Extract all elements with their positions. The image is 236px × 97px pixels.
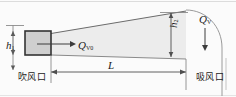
label-qv0-subscript: V0 [86,45,93,51]
L-arrow-right-head [180,69,186,74]
label-h2-subscript: 2 [173,20,179,23]
qv-flow-arrow-head [202,45,208,51]
label-qv-subscript: V [207,19,211,25]
label-L-symbol: L [108,59,114,71]
h1-lower-tick-head [11,65,15,70]
label-qv-symbol: Q [199,13,207,25]
label-h1: h1 [6,40,14,51]
h1-arrow-up-head [11,31,16,36]
figure-canvas: h1 QV0 L h2 QV 吹风口 吸风口 [0,0,236,97]
jet-region-fill [51,11,186,59]
label-h1-subscript: 1 [12,45,15,51]
label-qv0: QV0 [78,40,93,51]
label-qv: QV [199,14,211,25]
label-blow-port: 吹风口 [18,73,46,82]
blow-nozzle-box [25,31,51,55]
label-suction-port: 吸风口 [196,73,224,82]
label-h2: h2 [168,20,179,28]
L-arrow-left-head [51,69,57,74]
label-L: L [108,60,114,71]
label-h2-symbol: h [167,23,179,29]
label-qv0-symbol: Q [78,39,86,51]
